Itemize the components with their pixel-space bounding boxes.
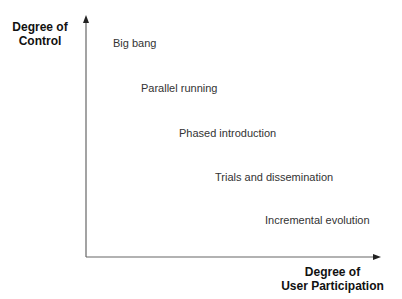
- item-big-bang: Big bang: [113, 37, 156, 50]
- y-axis-arrow-icon: [83, 15, 89, 23]
- x-axis-arrow-icon: [373, 254, 381, 260]
- item-parallel-running: Parallel running: [141, 82, 217, 95]
- x-axis-label-line2: User Participation: [265, 279, 400, 293]
- y-axis-label-line1: Degree of: [12, 20, 68, 34]
- item-phased-introduction: Phased introduction: [179, 127, 276, 140]
- x-axis-label: Degree of User Participation: [265, 265, 400, 293]
- x-axis-label-line1: Degree of: [265, 265, 400, 279]
- y-axis-label: Degree of Control: [12, 20, 68, 48]
- item-trials-and-dissemination: Trials and dissemination: [215, 171, 333, 184]
- item-incremental-evolution: Incremental evolution: [265, 214, 370, 227]
- y-axis-label-line2: Control: [12, 34, 68, 48]
